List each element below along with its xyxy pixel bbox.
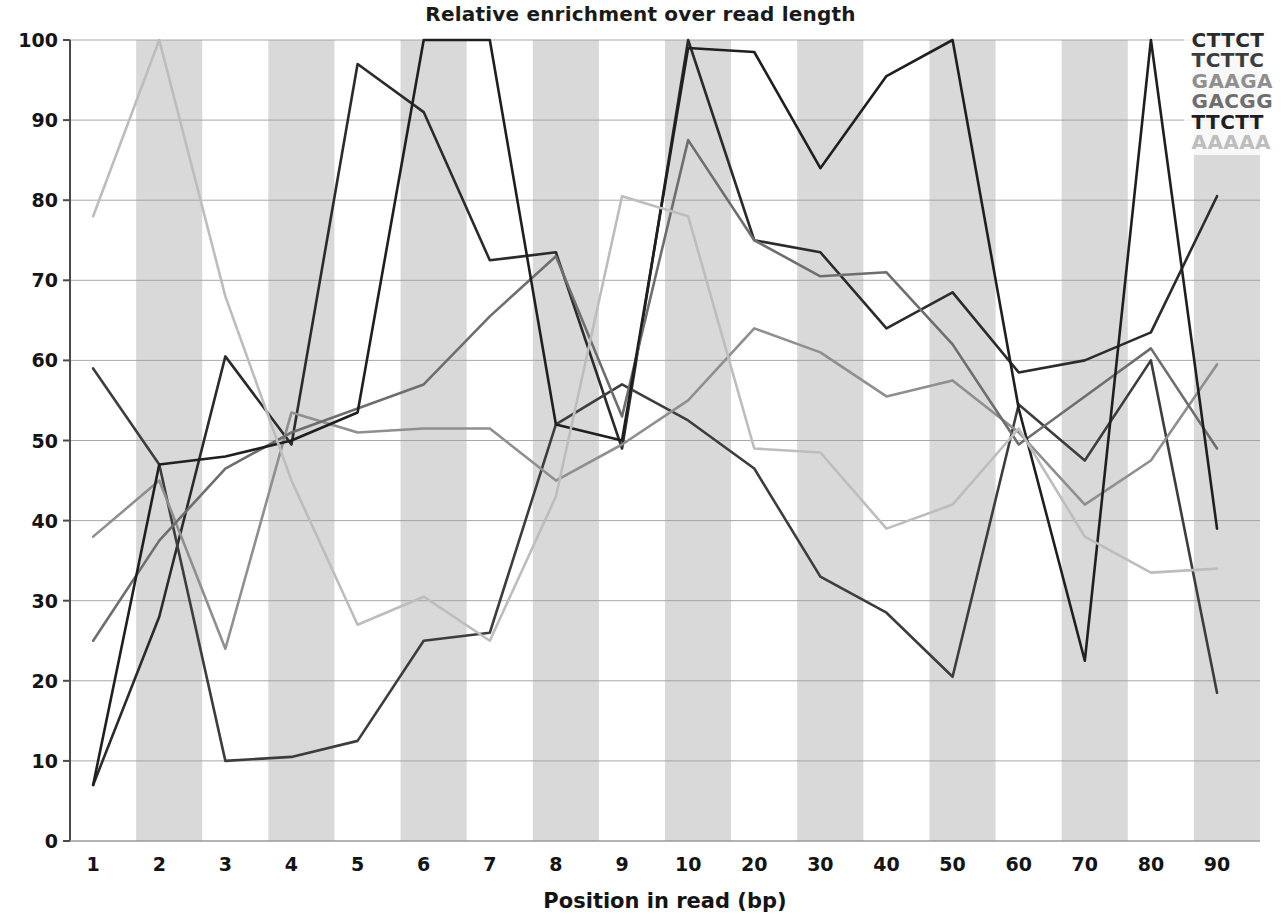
y-tick-label: 10 bbox=[32, 750, 58, 772]
x-tick-label: 40 bbox=[873, 853, 899, 875]
y-tick-label: 70 bbox=[32, 269, 58, 291]
chart-plot: 0102030405060708090100 12345678910203040… bbox=[0, 0, 1281, 923]
legend-item-gacgg[interactable]: GACGG bbox=[1192, 91, 1273, 111]
y-tick-label: 40 bbox=[32, 510, 58, 532]
x-tick-label: 30 bbox=[807, 853, 833, 875]
y-tick-label: 100 bbox=[18, 29, 58, 51]
y-tick-label: 50 bbox=[32, 430, 58, 452]
y-tick-label: 60 bbox=[32, 349, 58, 371]
x-tick-label: 6 bbox=[417, 853, 430, 875]
x-tick-label: 90 bbox=[1204, 853, 1230, 875]
x-tick-label: 50 bbox=[939, 853, 965, 875]
x-tick-label: 10 bbox=[675, 853, 701, 875]
legend-item-tcttc[interactable]: TCTTC bbox=[1192, 50, 1273, 70]
x-tick-label: 5 bbox=[351, 853, 364, 875]
x-tick-label: 8 bbox=[549, 853, 562, 875]
x-tick-label: 20 bbox=[741, 853, 767, 875]
data-series-lines bbox=[93, 40, 1217, 785]
y-tick-label: 30 bbox=[32, 590, 58, 612]
y-tick-label: 0 bbox=[45, 830, 58, 852]
x-tick-label: 7 bbox=[483, 853, 496, 875]
x-axis-title: Position in read (bp) bbox=[543, 889, 786, 913]
x-tick-label: 60 bbox=[1005, 853, 1031, 875]
x-tick-label: 1 bbox=[87, 853, 100, 875]
y-tick-label: 90 bbox=[32, 109, 58, 131]
series-line-aaaaa bbox=[93, 40, 1217, 641]
x-tick-label: 9 bbox=[615, 853, 628, 875]
x-tick-label: 3 bbox=[219, 853, 232, 875]
y-tick-label: 80 bbox=[32, 189, 58, 211]
x-tick-label: 4 bbox=[285, 853, 298, 875]
y-tick-labels: 0102030405060708090100 bbox=[18, 29, 70, 852]
series-line-gacgg bbox=[93, 140, 1217, 641]
legend-item-aaaaa[interactable]: AAAAA bbox=[1192, 132, 1273, 152]
legend-item-gaaga[interactable]: GAAGA bbox=[1192, 71, 1273, 91]
chart-container: Relative enrichment over read length 010… bbox=[0, 0, 1281, 923]
legend-item-cttct[interactable]: CTTCT bbox=[1192, 30, 1273, 50]
series-line-ttctt bbox=[93, 40, 1217, 785]
x-tick-labels: 123456789102030405060708090 bbox=[87, 853, 1231, 875]
x-tick-label: 70 bbox=[1072, 853, 1098, 875]
legend-item-ttctt[interactable]: TTCTT bbox=[1192, 112, 1273, 132]
y-tick-label: 20 bbox=[32, 670, 58, 692]
legend: CTTCT TCTTC GAAGA GACGG TTCTT AAAAA bbox=[1184, 28, 1279, 155]
series-line-tcttc bbox=[93, 360, 1217, 761]
x-tick-label: 80 bbox=[1138, 853, 1164, 875]
x-tick-label: 2 bbox=[153, 853, 166, 875]
series-line-cttct bbox=[93, 40, 1217, 785]
